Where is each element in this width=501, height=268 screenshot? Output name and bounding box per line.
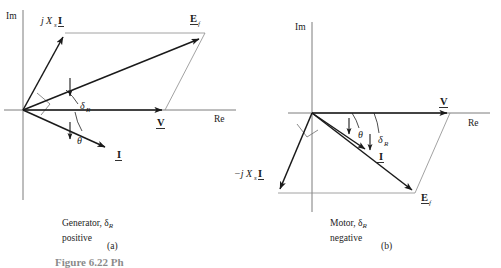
panel-b-label-excitation-voltage: E f	[421, 192, 432, 207]
panel-b-vector-reactance-drop	[280, 113, 312, 189]
svg-text:s: s	[54, 21, 57, 29]
panel-b-caption-line2: negative	[330, 233, 362, 243]
svg-text:E: E	[190, 13, 197, 24]
panel-b-caption: Motor, δR negative	[330, 218, 367, 244]
svg-text:R: R	[85, 106, 91, 114]
panel-a-vector-reactance-drop	[23, 37, 63, 110]
panel-a-label-terminal-voltage: V	[156, 117, 165, 129]
svg-text:V: V	[157, 117, 165, 128]
panel-a-label: (a)	[107, 241, 118, 253]
panel-b-right-angle-marker	[297, 124, 318, 137]
figure-caption-clipped: Figure 6.22 Ph	[55, 256, 124, 268]
panel-b-theta-arc	[352, 113, 359, 128]
panel-a-generator: Im Re j X s I E f V	[4, 10, 236, 200]
panel-a-caption-line2: positive	[62, 233, 92, 243]
panel-b-motor: Im Re −j X s I E f V	[234, 22, 490, 212]
panel-a-im-axis-label: Im	[6, 11, 17, 21]
panel-a-vector-armature-current	[23, 110, 105, 147]
panel-b-label-power-factor-angle: θ	[358, 129, 363, 140]
svg-text:X: X	[245, 168, 253, 179]
svg-text:R: R	[383, 140, 389, 148]
panel-a-caption-sub: R	[109, 222, 113, 230]
svg-text:V: V	[440, 96, 448, 107]
svg-text:s: s	[254, 174, 257, 182]
panel-b-caption-sub: R	[363, 222, 367, 230]
svg-text:f: f	[198, 20, 201, 28]
panel-b-label-reactance-drop: −j X s I	[234, 168, 264, 182]
panel-b-im-axis-label: Im	[295, 22, 306, 32]
panel-a-label-armature-current: I	[115, 149, 122, 161]
panel-a-re-axis-label: Re	[214, 114, 225, 124]
panel-a-vector-excitation-voltage	[23, 39, 199, 110]
svg-text:j: j	[39, 15, 44, 26]
panel-b-delta-arc	[374, 113, 379, 133]
svg-text:−j: −j	[234, 168, 244, 179]
svg-text:I: I	[258, 168, 262, 179]
svg-text:I: I	[379, 151, 383, 162]
svg-text:I: I	[58, 15, 62, 26]
panel-b-vector-excitation-voltage	[312, 113, 412, 190]
panel-a-caption-line1: Generator, δ	[62, 218, 109, 228]
panel-b-label-armature-current: I	[377, 151, 384, 163]
panel-a-label-excitation-voltage: E f	[190, 13, 201, 28]
svg-text:f: f	[429, 199, 432, 207]
svg-text:I: I	[117, 149, 121, 160]
panel-a-theta-arc	[75, 112, 82, 131]
panel-a-caption: Generator, δR positive	[62, 218, 113, 244]
svg-text:δ: δ	[378, 134, 383, 145]
panel-b-construction-right	[415, 113, 450, 193]
panel-a-label-power-angle: δ R	[80, 100, 91, 114]
panel-a-label-power-factor-angle: θ	[77, 135, 82, 146]
svg-text:δ: δ	[80, 100, 85, 111]
svg-text:X: X	[45, 15, 53, 26]
panel-b-label: (b)	[381, 241, 392, 253]
panel-b-label-terminal-voltage: V	[439, 96, 448, 108]
panel-b-re-axis-label: Re	[468, 118, 479, 128]
svg-text:E: E	[421, 192, 428, 203]
panel-a-label-reactance-drop: j X s I	[39, 15, 64, 29]
panel-b-caption-line1: Motor, δ	[330, 218, 363, 228]
panel-b-label-power-angle: δ R	[378, 134, 389, 148]
